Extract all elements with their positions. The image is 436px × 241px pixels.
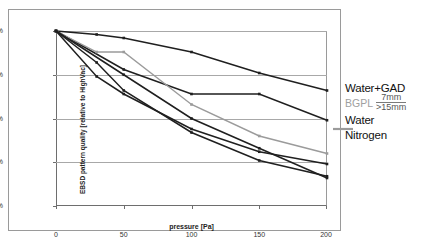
x-tick-50	[124, 206, 125, 209]
series-marker	[326, 119, 329, 122]
x-axis-title: pressure [Pa]	[56, 223, 327, 230]
series-marker	[258, 93, 261, 96]
series-marker	[326, 177, 329, 180]
y-tick-label-50: 50%	[0, 115, 3, 123]
x-tick-label-0: 0	[41, 231, 71, 238]
series-line	[56, 31, 327, 91]
series-marker	[258, 150, 261, 153]
y-tick-label-0: 0%	[0, 202, 3, 210]
series-marker	[122, 89, 125, 92]
legend-item-water: Water	[345, 114, 436, 126]
legend-label-bgpl: BGPL	[345, 97, 373, 109]
series-marker	[190, 131, 193, 134]
y-tick-label-75: 75%	[0, 71, 3, 79]
series-marker	[122, 37, 125, 40]
series-marker	[95, 33, 98, 36]
series-marker	[326, 152, 329, 155]
legend-bgpl-fraction: 7mm >15mm	[376, 93, 406, 112]
series-marker	[258, 135, 261, 138]
series-marker	[190, 128, 193, 131]
y-tick-label-25: 25%	[0, 158, 3, 166]
series-marker	[258, 147, 261, 150]
x-tick-label-50: 50	[109, 231, 139, 238]
series-marker	[258, 159, 261, 162]
series-marker	[95, 61, 98, 64]
series-marker	[190, 51, 193, 54]
data-series-layer	[56, 31, 327, 206]
series-line	[56, 31, 327, 154]
x-tick-150	[259, 206, 260, 209]
legend-block: Water+GAD BGPL 7mm >15mm Water Nitrogen	[345, 82, 436, 141]
series-marker	[326, 89, 329, 92]
series-marker	[55, 30, 58, 33]
chart-screenshot: 100% 75% 50% 25% 0% 0 50 100 150 200 EBS…	[0, 0, 436, 241]
chart-outer-frame: 100% 75% 50% 25% 0% 0 50 100 150 200 EBS…	[8, 9, 341, 231]
series-marker	[95, 51, 98, 54]
x-tick-label-150: 150	[244, 231, 274, 238]
series-marker	[190, 103, 193, 106]
legend-label-nitrogen: Nitrogen	[345, 129, 387, 141]
legend-item-bgpl: BGPL 7mm >15mm	[345, 93, 436, 112]
series-marker	[326, 163, 329, 166]
series-marker	[122, 51, 125, 54]
plot-area: 100% 75% 50% 25% 0% 0 50 100 150 200 EBS…	[56, 31, 327, 206]
legend-item-nitrogen: Nitrogen	[345, 129, 436, 141]
y-axis-title: EBSD pattern quality [relative to HighVa…	[79, 55, 86, 205]
series-marker	[122, 68, 125, 71]
series-marker	[95, 75, 98, 78]
x-tick-label-100: 100	[177, 231, 207, 238]
series-marker	[190, 117, 193, 120]
x-tick-100	[192, 206, 193, 209]
y-tick-label-100: 100%	[0, 27, 3, 35]
legend-bgpl-denominator: >15mm	[376, 103, 406, 112]
series-marker	[190, 93, 193, 96]
series-marker	[122, 93, 125, 96]
x-tick-0	[56, 206, 57, 209]
x-tick-label-200: 200	[311, 231, 341, 238]
series-marker	[258, 72, 261, 75]
series-marker	[122, 73, 125, 76]
x-tick-200	[326, 206, 327, 209]
legend-label-water: Water	[345, 114, 374, 126]
